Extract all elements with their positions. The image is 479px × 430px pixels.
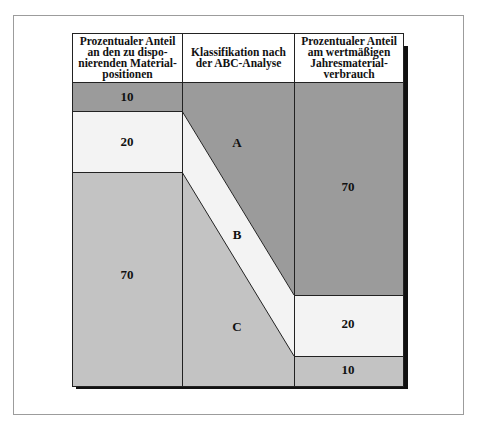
class-label-c: C <box>232 319 241 335</box>
col3-value-a: 70 <box>342 179 355 195</box>
header-col1: Prozentualer Anteil an den zu dispo-nier… <box>73 34 182 82</box>
class-label-b: B <box>233 227 242 243</box>
col1-value-c: 70 <box>121 267 134 283</box>
col1-value-a: 10 <box>121 89 134 105</box>
class-label-a: A <box>232 135 241 151</box>
col3-value-c: 10 <box>342 362 355 378</box>
header-col3: Prozentualer Anteil am wertmäßigen Jahre… <box>295 34 403 82</box>
header-col2: Klassifikation nach der ABC-Analyse <box>183 34 294 82</box>
col3-value-b: 20 <box>342 316 355 332</box>
col1-value-b: 20 <box>121 134 134 150</box>
